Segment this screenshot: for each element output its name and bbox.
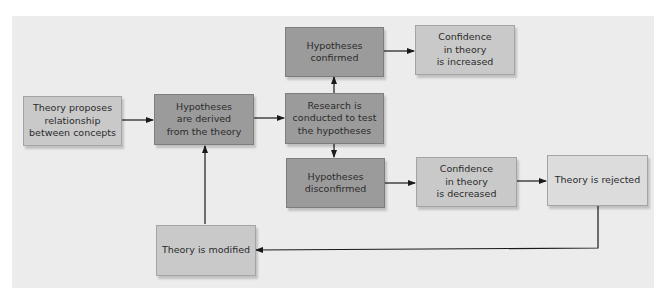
node-confidence-increased: Confidence in theory is increased xyxy=(415,25,515,75)
node-theory-modified: Theory is modified xyxy=(156,225,256,276)
node-theory-proposes: Theory proposes relationship between con… xyxy=(23,96,122,146)
node-hypotheses-confirmed: Hypotheses confirmed xyxy=(285,27,384,77)
node-hypotheses-disconfirmed: Hypotheses disconfirmed xyxy=(286,158,385,208)
node-theory-rejected: Theory is rejected xyxy=(547,155,648,206)
node-confidence-decreased: Confidence in theory is decreased xyxy=(416,157,517,207)
node-research-conducted: Research is conducted to test the hypoth… xyxy=(285,93,384,144)
node-hypotheses-derived: Hypotheses are derived from the theory xyxy=(154,94,254,145)
